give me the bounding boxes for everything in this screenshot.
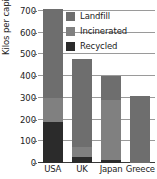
- y-tick-label-400: 400: [2, 72, 36, 81]
- y-tick-mark-100: [33, 141, 37, 142]
- legend-label-incinerated: Incinerated: [80, 26, 127, 36]
- y-tick-mark-600: [33, 33, 37, 34]
- legend-swatch-landfill: [66, 12, 75, 21]
- x-tick-label-japan: Japan: [97, 165, 126, 174]
- bar-segment-uk-landfill: [72, 59, 92, 147]
- y-tick-label-300: 300: [2, 94, 36, 103]
- bar-segment-usa-landfill: [43, 9, 63, 98]
- legend-item-recycled[interactable]: Recycled: [66, 39, 154, 54]
- legend-swatch-incinerated: [66, 27, 75, 36]
- y-tick-label-700: 700: [2, 7, 36, 16]
- x-tick-label-usa: USA: [38, 165, 67, 174]
- legend-label-landfill: Landfill: [80, 11, 110, 21]
- bar-segment-japan-recycled: [101, 160, 121, 163]
- y-tick-label-500: 500: [2, 50, 36, 59]
- legend-label-recycled: Recycled: [80, 41, 117, 51]
- bar-segment-greece-landfill: [130, 96, 150, 163]
- y-tick-mark-500: [33, 54, 37, 55]
- legend-swatch-recycled: [66, 42, 75, 51]
- y-tick-label-100: 100: [2, 137, 36, 146]
- y-tick-mark-300: [33, 98, 37, 99]
- bar-usa[interactable]: [43, 9, 63, 163]
- x-tick-label-uk: UK: [67, 165, 96, 174]
- bar-japan[interactable]: [101, 76, 121, 163]
- bar-uk[interactable]: [72, 59, 92, 163]
- legend-item-incinerated[interactable]: Incinerated: [66, 24, 154, 39]
- waste-disposal-stacked-bar-chart: Kilos per capita 0100200300400500600700 …: [0, 0, 157, 179]
- bar-segment-japan-incinerated: [101, 100, 121, 160]
- x-tick-label-greece: Greece: [126, 165, 155, 174]
- bar-segment-uk-recycled: [72, 157, 92, 164]
- bar-segment-uk-incinerated: [72, 147, 92, 157]
- y-tick-mark-400: [33, 76, 37, 77]
- bar-segment-japan-landfill: [101, 76, 121, 100]
- y-tick-mark-200: [33, 120, 37, 121]
- y-tick-mark-0: [33, 163, 37, 164]
- y-tick-label-200: 200: [2, 116, 36, 125]
- legend-item-landfill[interactable]: Landfill: [66, 9, 154, 24]
- bar-segment-usa-recycled: [43, 122, 63, 163]
- y-tick-label-0: 0: [2, 159, 36, 168]
- y-tick-mark-700: [33, 11, 37, 12]
- bar-greece[interactable]: [130, 96, 150, 163]
- y-tick-label-600: 600: [2, 29, 36, 38]
- bar-segment-usa-incinerated: [43, 98, 63, 122]
- legend: Landfill Incinerated Recycled: [66, 9, 154, 54]
